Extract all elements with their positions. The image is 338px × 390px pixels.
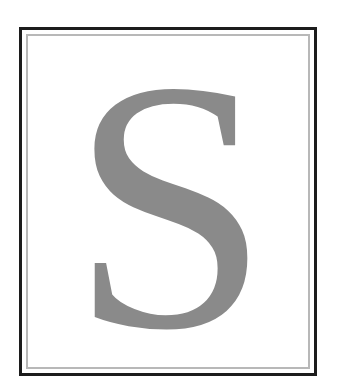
decorative-initial-letter: S xyxy=(28,36,308,367)
outer-frame-border: S xyxy=(19,27,317,376)
inner-frame-border: S xyxy=(26,34,310,369)
